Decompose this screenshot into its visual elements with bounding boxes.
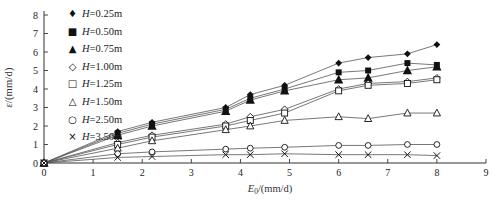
data-point: [336, 88, 342, 94]
data-point: [336, 143, 342, 149]
x-axis-label: E0/(mm/d): [190, 183, 350, 196]
legend-marker-open-circle-icon: ○: [66, 111, 79, 129]
legend-label: H=1.50m: [82, 96, 122, 107]
legend-marker-filled-triangle-icon: ▲: [66, 40, 79, 58]
data-point: [282, 110, 288, 116]
legend-marker-open-diamond-icon: ◇: [66, 58, 79, 76]
data-point: [335, 113, 342, 120]
y-tick-label: 2: [33, 121, 38, 132]
data-point: [433, 41, 440, 48]
legend-item-H=0.25m: ♦H=0.25m: [66, 5, 122, 23]
legend-marker-cross-icon: ×: [66, 128, 79, 146]
legend-item-H=0.50m: ■H=0.50m: [66, 23, 122, 41]
x-tick-label: 6: [336, 167, 341, 178]
y-tick-label: 8: [33, 10, 38, 21]
legend-label: H=0.75m: [82, 43, 122, 54]
y-tick-label: 5: [33, 65, 38, 76]
x-tick-label: 5: [287, 167, 292, 178]
legend-marker-filled-square-icon: ■: [66, 23, 79, 41]
legend-item-H=1.50m: △H=1.50m: [66, 93, 122, 111]
y-tick-label: 7: [33, 28, 38, 39]
data-point: [282, 144, 288, 150]
x-tick-label: 1: [91, 167, 96, 178]
legend-label: H=0.25m: [82, 8, 122, 19]
y-tick-label: 4: [33, 84, 38, 95]
legend-item-H=2.50m: ○H=2.50m: [66, 111, 122, 129]
chart-legend: ♦H=0.25m■H=0.50m▲H=0.75m◇H=1.00m□H=1.25m…: [66, 5, 122, 146]
y-tick-label: 0: [33, 158, 38, 169]
data-point: [365, 68, 371, 74]
x-tick-label: 0: [42, 167, 47, 178]
legend-label: H=2.50m: [82, 114, 122, 125]
data-point: [434, 77, 440, 83]
data-point: [405, 142, 411, 148]
y-tick-label: 1: [33, 139, 38, 150]
legend-marker-open-square-icon: □: [66, 75, 79, 93]
legend-item-H=1.00m: ◇H=1.00m: [66, 58, 122, 76]
data-point: [223, 146, 229, 152]
data-point: [434, 142, 440, 148]
x-tick-label: 8: [434, 167, 439, 178]
y-axis-label: ε/(mm/d): [3, 48, 16, 128]
legend-marker-open-triangle-icon: △: [66, 93, 79, 111]
y-tick-label: 6: [33, 47, 38, 58]
legend-marker-filled-diamond-icon: ♦: [66, 5, 79, 23]
legend-label: H=1.25m: [82, 78, 122, 89]
data-point: [404, 109, 411, 116]
data-point: [247, 145, 253, 151]
evaporation-vs-e0-chart: 0123456789012345678 ε/(mm/d) E0/(mm/d) ♦…: [0, 0, 503, 207]
x-tick-label: 9: [484, 167, 489, 178]
legend-label: H=3.50m: [82, 131, 122, 142]
x-tick-label: 4: [238, 167, 243, 178]
data-point: [336, 69, 342, 75]
legend-label: H=1.00m: [82, 61, 122, 72]
data-point: [404, 60, 410, 66]
legend-label: H=0.50m: [82, 26, 122, 37]
x-tick-label: 7: [385, 167, 390, 178]
data-point: [404, 50, 411, 57]
data-point: [335, 60, 342, 67]
legend-item-H=1.25m: □H=1.25m: [66, 75, 122, 93]
data-point: [404, 80, 410, 86]
data-point: [365, 82, 371, 88]
data-point: [334, 75, 343, 84]
data-point: [432, 62, 441, 71]
data-point: [433, 109, 440, 116]
y-tick-label: 3: [33, 102, 38, 113]
x-tick-label: 3: [189, 167, 194, 178]
legend-item-H=0.75m: ▲H=0.75m: [66, 40, 122, 58]
legend-item-H=3.50m: ×H=3.50m: [66, 128, 122, 146]
x-tick-label: 2: [140, 167, 145, 178]
data-point: [365, 54, 372, 61]
data-point: [365, 143, 371, 149]
